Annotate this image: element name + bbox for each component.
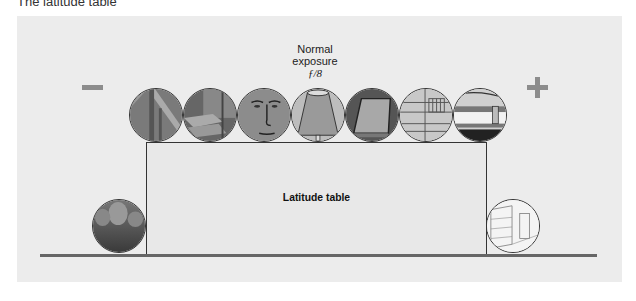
normal-exposure-label: Normal exposure ƒ/8	[260, 43, 370, 79]
building-facade-icon	[399, 88, 453, 142]
lampshade-icon	[291, 88, 345, 142]
window-frame-icon	[129, 88, 183, 142]
normal-exposure-fstop: ƒ/8	[260, 67, 370, 79]
dark-rocks-icon	[92, 199, 146, 253]
ground-line	[40, 254, 597, 257]
bright-street-icon	[486, 199, 540, 253]
latitude-table: Latitude table	[146, 142, 487, 255]
closed-book-icon	[345, 88, 399, 142]
latitude-table-label: Latitude table	[164, 191, 469, 203]
open-book-icon	[183, 88, 237, 142]
normal-exposure-line1: Normal	[260, 43, 370, 55]
curtain-rod-icon	[453, 88, 507, 142]
plus-sign-icon-vertical	[535, 77, 540, 98]
figure-caption: The latitude table	[17, 0, 117, 9]
face-icon	[237, 88, 291, 142]
minus-sign-icon	[82, 85, 103, 90]
normal-exposure-line2: exposure	[260, 55, 370, 67]
